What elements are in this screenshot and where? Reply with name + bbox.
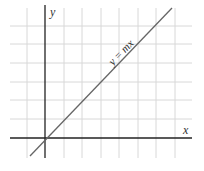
grid xyxy=(10,8,192,158)
coordinate-plane: y x y = mx xyxy=(0,0,204,171)
y-axis-label: y xyxy=(49,5,56,19)
x-axis-label: x xyxy=(182,123,189,137)
